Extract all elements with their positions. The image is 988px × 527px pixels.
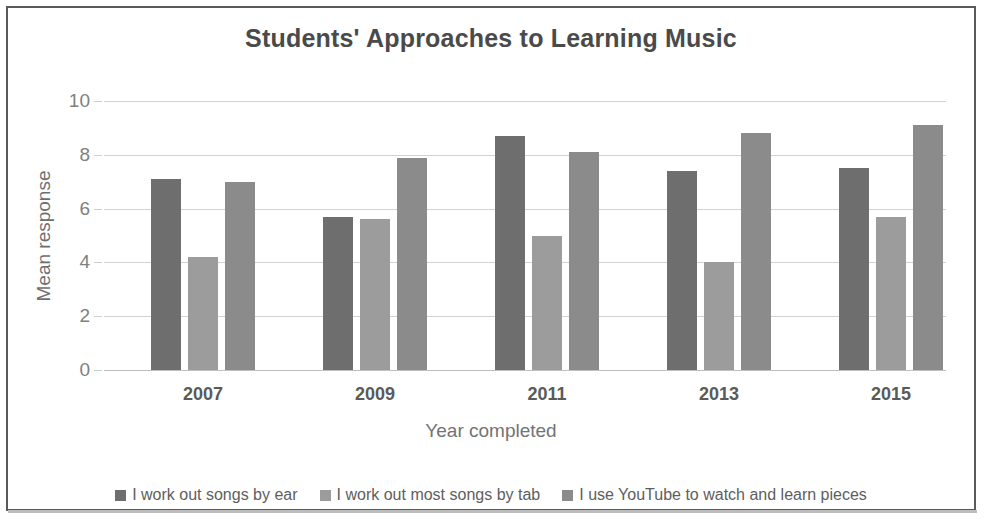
legend-swatch-icon — [115, 490, 126, 501]
y-tick-label: 2 — [79, 305, 90, 327]
bar[interactable] — [741, 133, 771, 370]
chart-legend: I work out songs by earI work out most s… — [8, 486, 974, 504]
y-tick-label: 0 — [79, 359, 90, 381]
legend-item[interactable]: I work out songs by ear — [115, 486, 297, 504]
y-tick-mark — [94, 101, 102, 102]
chart-screenshot: Students' Approaches to Learning Music M… — [0, 0, 988, 527]
y-tick-label: 10 — [69, 90, 90, 112]
bar[interactable] — [876, 217, 906, 370]
legend-label: I work out songs by ear — [132, 486, 297, 504]
bar[interactable] — [495, 136, 525, 370]
x-tick-label: 2013 — [659, 384, 779, 405]
bar[interactable] — [704, 262, 734, 370]
legend-label: I use YouTube to watch and learn pieces — [579, 486, 867, 504]
legend-item[interactable]: I use YouTube to watch and learn pieces — [562, 486, 867, 504]
x-tick-label: 2015 — [831, 384, 951, 405]
bar[interactable] — [188, 257, 218, 370]
x-axis-title: Year completed — [8, 420, 974, 442]
bar[interactable] — [225, 182, 255, 370]
bar[interactable] — [839, 168, 869, 370]
gridline — [104, 370, 946, 371]
y-axis-title: Mean response — [30, 101, 58, 370]
bar-group: 2015 — [839, 101, 943, 370]
y-tick-mark — [94, 316, 102, 317]
bar-group: 2011 — [495, 101, 599, 370]
bar[interactable] — [532, 236, 562, 371]
y-tick-label: 8 — [79, 144, 90, 166]
y-axis-title-label: Mean response — [33, 170, 55, 301]
y-tick-mark — [94, 155, 102, 156]
y-tick-mark — [94, 262, 102, 263]
y-tick-mark — [94, 209, 102, 210]
bar-group: 2009 — [323, 101, 427, 370]
bar[interactable] — [323, 217, 353, 370]
bar[interactable] — [397, 158, 427, 371]
legend-item[interactable]: I work out most songs by tab — [320, 486, 541, 504]
plot-area: 024681020072009201120132015 — [104, 101, 946, 370]
chart-frame: Students' Approaches to Learning Music M… — [6, 6, 976, 511]
y-tick-label: 6 — [79, 198, 90, 220]
y-tick-label: 4 — [79, 251, 90, 273]
bar-group: 2007 — [151, 101, 255, 370]
bar[interactable] — [360, 219, 390, 370]
bar[interactable] — [151, 179, 181, 370]
chart-title: Students' Approaches to Learning Music — [8, 24, 974, 53]
x-tick-label: 2011 — [487, 384, 607, 405]
y-tick-mark — [94, 370, 102, 371]
bar[interactable] — [913, 125, 943, 370]
x-tick-label: 2007 — [143, 384, 263, 405]
x-tick-label: 2009 — [315, 384, 435, 405]
legend-swatch-icon — [562, 490, 573, 501]
legend-label: I work out most songs by tab — [337, 486, 541, 504]
bar[interactable] — [569, 152, 599, 370]
bar-group: 2013 — [667, 101, 771, 370]
legend-swatch-icon — [320, 490, 331, 501]
bar[interactable] — [667, 171, 697, 370]
